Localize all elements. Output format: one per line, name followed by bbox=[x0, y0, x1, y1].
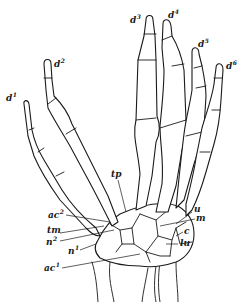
leader-n1 bbox=[80, 244, 96, 250]
digit-3 bbox=[135, 16, 159, 211]
label-ac2: ac2 bbox=[48, 209, 64, 220]
hand-skeleton-drawing bbox=[0, 0, 246, 302]
label-d5: d5 bbox=[198, 38, 209, 49]
label-tm: tm bbox=[47, 226, 61, 235]
label-lu: lu bbox=[180, 239, 190, 248]
label-m: m bbox=[196, 214, 206, 223]
ulna-bone bbox=[142, 262, 178, 302]
label-n2: n2 bbox=[46, 236, 57, 247]
leader-tp bbox=[118, 180, 126, 212]
label-c: c bbox=[184, 227, 189, 236]
hand-skeleton-figure: d1 d2 d3 d4 d5 d6 tp ac2 tm n2 n1 ac1 u … bbox=[0, 0, 246, 302]
label-n1: n1 bbox=[68, 245, 79, 256]
label-tp: tp bbox=[111, 170, 121, 179]
digit-2 bbox=[44, 60, 118, 227]
label-d2: d2 bbox=[54, 58, 65, 69]
label-d1: d1 bbox=[6, 92, 17, 103]
label-d3: d3 bbox=[130, 14, 141, 25]
label-d4: d4 bbox=[168, 9, 179, 20]
label-ac1: ac1 bbox=[44, 262, 60, 273]
radius-bone bbox=[92, 262, 114, 302]
label-d6: d6 bbox=[226, 60, 237, 71]
